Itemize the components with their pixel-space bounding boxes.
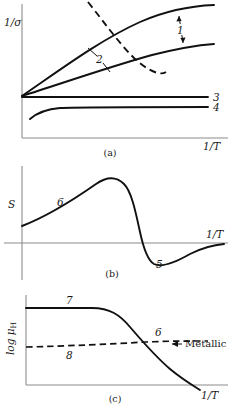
- panel-a-gap-arrow-head-top: [176, 16, 181, 22]
- panel-a-caption: (a): [103, 147, 116, 158]
- panel-c-y-axis-label-main: log μ: [4, 328, 16, 355]
- panel-a-curve-1: [22, 5, 214, 96]
- panel-a-curve-label-4: 4: [212, 101, 220, 113]
- panel-c-y-axis-label-sub: H: [9, 321, 18, 328]
- panel-a-curve-label-1: 1: [177, 24, 184, 36]
- panel-b-caption: (b): [105, 268, 119, 279]
- panel-c-caption: (c): [109, 393, 122, 404]
- panel-c-metallic-label: Metallic: [185, 338, 227, 349]
- panel-c-plot: Metallic 7 8 6 log μH 1/T (c): [0, 285, 236, 414]
- panel-a-curve-4: [30, 107, 208, 119]
- panel-c-y-axis-label-group: log μH: [4, 321, 18, 355]
- panel-a-plot: 1 2 3 4 1/σ 1/T (a): [0, 0, 236, 160]
- panel-b-x-axis-label: 1/T: [206, 228, 224, 240]
- panel-c-y-axis-label: log μH: [4, 321, 18, 355]
- panel-b-curve-label-5: 5: [156, 258, 163, 270]
- panel-c-curve-7: [26, 308, 200, 390]
- panel-b: 6 5 S 1/T (b): [0, 160, 236, 285]
- panel-b-plot: 6 5 S 1/T (b): [0, 160, 236, 285]
- panel-a-gap-arrow-head-bottom: [180, 37, 185, 43]
- panel-b-y-axis-label: S: [8, 198, 15, 210]
- panel-b-curve-label-6: 6: [57, 196, 64, 208]
- panel-a-x-axis-label: 1/T: [203, 140, 221, 152]
- panel-b-curve-6-5: [22, 178, 224, 265]
- panel-c-curve-label-6: 6: [155, 326, 162, 338]
- panel-c-curve-label-7: 7: [66, 294, 73, 306]
- panel-a-curve-2: [22, 44, 214, 96]
- panel-c-x-axis-label: 1/T: [201, 389, 219, 401]
- figure-container: 1 2 3 4 1/σ 1/T (a) 6 5 S: [0, 0, 236, 414]
- panel-c-curve-label-8: 8: [66, 349, 73, 361]
- panel-c: Metallic 7 8 6 log μH 1/T (c): [0, 285, 236, 414]
- panel-a-curve-label-2: 2: [95, 53, 103, 65]
- panel-a-y-axis-label: 1/σ: [4, 16, 22, 28]
- panel-a: 1 2 3 4 1/σ 1/T (a): [0, 0, 236, 160]
